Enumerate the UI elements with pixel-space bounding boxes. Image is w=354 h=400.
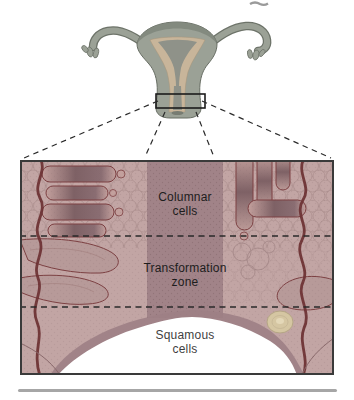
callout-line-inner-right [196, 112, 214, 157]
cyst [267, 311, 293, 333]
bottom-divider [18, 389, 337, 392]
uterus-illustration [81, 3, 268, 119]
callout-line-outer-right [202, 101, 331, 158]
external-os [172, 111, 184, 115]
label-transformation-zone: Transformation zone [137, 262, 233, 289]
fimbriae-right-icon [247, 48, 266, 60]
callout-line-inner-left [145, 112, 165, 157]
label-squamous-cells: Squamous cells [149, 329, 221, 356]
callout-line-outer-left [24, 101, 158, 158]
scan-speck [250, 3, 268, 5]
figure-canvas: Columnar cells Transformation zone Squam… [0, 0, 354, 400]
label-columnar-cells: Columnar cells [150, 191, 220, 218]
cervical-canal [173, 86, 182, 110]
